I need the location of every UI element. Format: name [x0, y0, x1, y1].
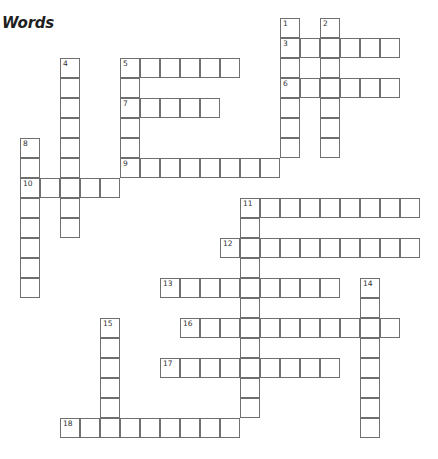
grid-cell[interactable] [60, 178, 80, 198]
grid-cell[interactable] [380, 38, 400, 58]
grid-cell[interactable] [320, 118, 340, 138]
grid-cell[interactable] [100, 178, 120, 198]
grid-cell[interactable] [240, 358, 260, 378]
grid-cell[interactable] [200, 318, 220, 338]
grid-cell[interactable] [320, 98, 340, 118]
grid-cell[interactable] [20, 278, 40, 298]
grid-cell[interactable] [280, 118, 300, 138]
grid-cell[interactable] [160, 98, 180, 118]
grid-cell[interactable] [400, 198, 420, 218]
grid-cell[interactable] [240, 218, 260, 238]
grid-cell[interactable] [200, 278, 220, 298]
grid-cell[interactable]: 10 [20, 178, 40, 198]
grid-cell[interactable] [60, 118, 80, 138]
grid-cell[interactable] [160, 58, 180, 78]
grid-cell[interactable] [240, 238, 260, 258]
grid-cell[interactable] [220, 158, 240, 178]
grid-cell[interactable] [240, 318, 260, 338]
grid-cell[interactable] [100, 338, 120, 358]
grid-cell[interactable] [340, 38, 360, 58]
grid-cell[interactable]: 2 [320, 18, 340, 38]
grid-cell[interactable]: 14 [360, 278, 380, 298]
grid-cell[interactable]: 9 [120, 158, 140, 178]
grid-cell[interactable] [100, 418, 120, 438]
grid-cell[interactable] [300, 78, 320, 98]
grid-cell[interactable] [400, 238, 420, 258]
grid-cell[interactable] [360, 398, 380, 418]
grid-cell[interactable] [360, 358, 380, 378]
grid-cell[interactable]: 7 [120, 98, 140, 118]
grid-cell[interactable]: 17 [160, 358, 180, 378]
grid-cell[interactable] [320, 358, 340, 378]
grid-cell[interactable] [340, 78, 360, 98]
grid-cell[interactable] [280, 358, 300, 378]
grid-cell[interactable] [100, 358, 120, 378]
grid-cell[interactable] [320, 78, 340, 98]
grid-cell[interactable] [380, 198, 400, 218]
grid-cell[interactable] [180, 358, 200, 378]
grid-cell[interactable]: 16 [180, 318, 200, 338]
grid-cell[interactable] [60, 218, 80, 238]
grid-cell[interactable] [240, 378, 260, 398]
grid-cell[interactable] [360, 38, 380, 58]
grid-cell[interactable] [300, 278, 320, 298]
grid-cell[interactable] [140, 58, 160, 78]
grid-cell[interactable] [240, 258, 260, 278]
grid-cell[interactable] [20, 198, 40, 218]
grid-cell[interactable]: 13 [160, 278, 180, 298]
grid-cell[interactable] [180, 58, 200, 78]
grid-cell[interactable]: 15 [100, 318, 120, 338]
grid-cell[interactable] [200, 98, 220, 118]
grid-cell[interactable] [320, 238, 340, 258]
grid-cell[interactable] [360, 198, 380, 218]
grid-cell[interactable] [80, 418, 100, 438]
grid-cell[interactable] [260, 198, 280, 218]
grid-cell[interactable] [340, 198, 360, 218]
grid-cell[interactable] [340, 238, 360, 258]
grid-cell[interactable] [120, 118, 140, 138]
grid-cell[interactable] [60, 78, 80, 98]
grid-cell[interactable]: 5 [120, 58, 140, 78]
grid-cell[interactable]: 6 [280, 78, 300, 98]
grid-cell[interactable] [80, 178, 100, 198]
grid-cell[interactable] [340, 318, 360, 338]
grid-cell[interactable] [240, 398, 260, 418]
grid-cell[interactable] [380, 318, 400, 338]
grid-cell[interactable] [200, 58, 220, 78]
grid-cell[interactable] [360, 238, 380, 258]
grid-cell[interactable] [200, 418, 220, 438]
grid-cell[interactable] [380, 238, 400, 258]
grid-cell[interactable] [120, 138, 140, 158]
grid-cell[interactable] [60, 158, 80, 178]
grid-cell[interactable] [360, 378, 380, 398]
grid-cell[interactable] [260, 238, 280, 258]
grid-cell[interactable] [100, 398, 120, 418]
grid-cell[interactable] [260, 358, 280, 378]
grid-cell[interactable]: 3 [280, 38, 300, 58]
grid-cell[interactable]: 1 [280, 18, 300, 38]
grid-cell[interactable] [240, 298, 260, 318]
grid-cell[interactable] [180, 158, 200, 178]
grid-cell[interactable]: 8 [20, 138, 40, 158]
grid-cell[interactable] [40, 178, 60, 198]
grid-cell[interactable]: 4 [60, 58, 80, 78]
grid-cell[interactable] [200, 158, 220, 178]
grid-cell[interactable] [220, 278, 240, 298]
grid-cell[interactable] [280, 58, 300, 78]
grid-cell[interactable] [280, 138, 300, 158]
grid-cell[interactable] [300, 198, 320, 218]
grid-cell[interactable] [280, 278, 300, 298]
grid-cell[interactable] [280, 198, 300, 218]
grid-cell[interactable] [20, 158, 40, 178]
grid-cell[interactable] [220, 358, 240, 378]
grid-cell[interactable] [280, 318, 300, 338]
grid-cell[interactable] [160, 158, 180, 178]
grid-cell[interactable] [260, 278, 280, 298]
grid-cell[interactable] [220, 318, 240, 338]
grid-cell[interactable] [280, 98, 300, 118]
grid-cell[interactable] [60, 98, 80, 118]
grid-cell[interactable] [220, 418, 240, 438]
grid-cell[interactable] [320, 198, 340, 218]
grid-cell[interactable] [260, 158, 280, 178]
grid-cell[interactable] [220, 58, 240, 78]
